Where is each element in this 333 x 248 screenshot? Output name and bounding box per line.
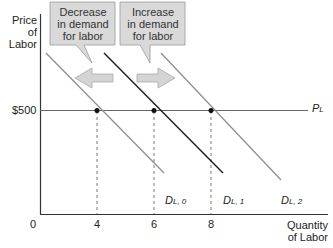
dl0-label: DL, 0: [165, 194, 186, 206]
demand-curve-dl2: [161, 53, 281, 180]
pl-label: PL: [312, 102, 324, 114]
price-tick-500: $500: [12, 104, 36, 116]
dl1-label: DL, 1: [223, 194, 244, 206]
equilibrium-point-6: [152, 108, 157, 113]
right-arrow-icon: [137, 68, 175, 88]
dl2-label-main: D: [281, 194, 289, 206]
dl1-label-sub: L, 1: [231, 197, 244, 206]
demand-curve-dl0: [46, 53, 164, 173]
callout-decrease-text: Decrease in demand for labor: [50, 6, 116, 42]
callout-increase-line3: for labor: [120, 30, 186, 42]
x-axis-label: Quantity of Labor: [270, 219, 328, 243]
dl0-label-main: D: [165, 194, 173, 206]
callout-increase-line1: Increase: [120, 6, 186, 18]
x-tick-4: 4: [94, 218, 100, 230]
y-axis-label: Price of Labor: [0, 14, 37, 50]
dl2-label-sub: L, 2: [289, 197, 302, 206]
callout-decrease-line3: for labor: [50, 30, 116, 42]
left-arrow-icon: [75, 68, 113, 88]
callout-increase-line2: in demand: [120, 18, 186, 30]
x-axis-label-line1: Quantity: [270, 219, 328, 231]
origin-tick: 0: [30, 218, 36, 230]
x-tick-6: 6: [151, 218, 157, 230]
x-axis-label-line2: of Labor: [270, 231, 328, 243]
dl2-label: DL, 2: [281, 194, 302, 206]
callout-decrease-line2: in demand: [50, 18, 116, 30]
pl-label-sub: L: [319, 105, 323, 114]
y-axis-label-line2: Labor: [0, 38, 37, 50]
dl0-label-sub: L, 0: [173, 197, 186, 206]
equilibrium-point-4: [95, 108, 100, 113]
dl1-label-main: D: [223, 194, 231, 206]
y-axis-label-line1: Price of: [0, 14, 37, 38]
x-tick-8: 8: [208, 218, 214, 230]
equilibrium-point-8: [209, 108, 214, 113]
callout-increase-text: Increase in demand for labor: [120, 6, 186, 42]
callout-decrease-line1: Decrease: [50, 6, 116, 18]
